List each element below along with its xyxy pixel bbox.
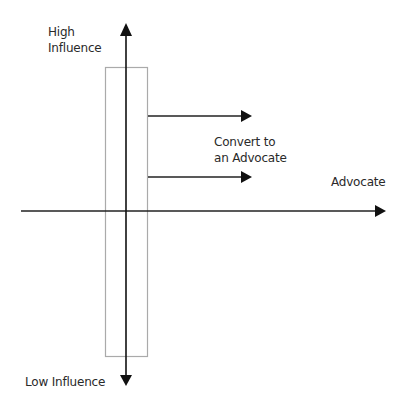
low-influence-label: Low Influence	[25, 374, 105, 390]
vertical-axis-down-arrowhead-icon	[120, 375, 132, 386]
vertical-axis-up-arrowhead-icon	[120, 23, 132, 36]
horizontal-axis-arrowhead-icon	[375, 205, 386, 217]
convert-arrow-lower-head-icon	[241, 171, 252, 183]
high-influence-line1: High	[48, 24, 101, 40]
diagram-canvas	[0, 0, 409, 414]
convert-to-advocate-label: Convert to an Advocate	[214, 134, 287, 166]
convert-line1: Convert to	[214, 134, 287, 150]
high-influence-label: High Influence	[48, 24, 101, 56]
advocate-axis-label: Advocate	[331, 174, 386, 190]
convert-arrow-upper-head-icon	[241, 110, 252, 122]
convert-line2: an Advocate	[214, 150, 287, 166]
high-influence-line2: Influence	[48, 40, 101, 56]
